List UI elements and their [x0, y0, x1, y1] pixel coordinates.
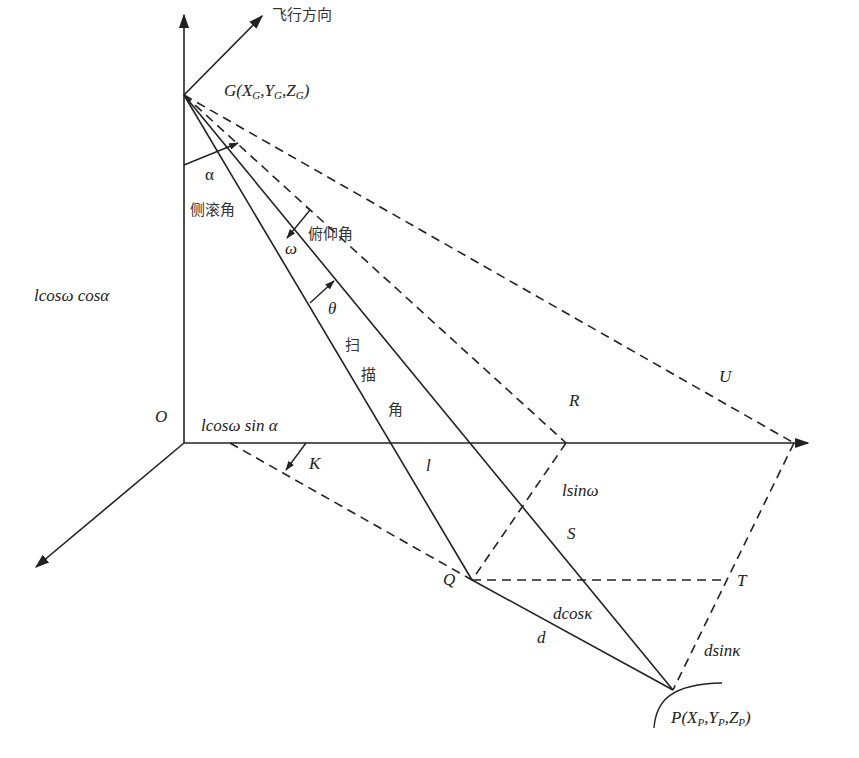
R-label: R	[569, 392, 579, 409]
T-label: T	[737, 572, 746, 589]
vertical-length-label: lcosω cosα	[34, 287, 109, 304]
roll-angle-label: 侧滚角	[190, 203, 235, 218]
dashed-G-U	[184, 95, 794, 443]
omega-label: ω	[285, 240, 297, 257]
point-G-label: G(XG,YG,ZG)	[224, 82, 309, 101]
l-label: l	[426, 457, 431, 474]
horizontal-length-label: lcosω sin α	[201, 417, 278, 434]
scan-angle-char-2: 描	[361, 368, 376, 383]
pitch-angle-label: 俯仰角	[308, 227, 353, 242]
ray-G-Q	[184, 95, 472, 580]
lsin-omega-label: lsinω	[562, 482, 599, 499]
kappa-arrow	[286, 443, 306, 470]
origin-label: O	[155, 408, 167, 425]
dcos-kappa-label: dcosκ	[553, 605, 592, 622]
ray-G-P	[184, 95, 673, 690]
Q-label: Q	[443, 571, 455, 588]
dsin-kappa-label: dsinκ	[704, 642, 741, 659]
K-label: K	[309, 455, 320, 472]
scan-angle-char-3: 角	[388, 403, 403, 418]
S-label: S	[567, 525, 576, 542]
y-axis	[36, 443, 184, 567]
d-label: d	[537, 629, 546, 646]
segment-Q-P	[472, 580, 673, 690]
theta-label: θ	[328, 300, 336, 317]
alpha-label: α	[205, 166, 214, 183]
scan-angle-char-1: 扫	[345, 338, 360, 353]
flight-direction-label: 飞行方向	[272, 8, 332, 23]
U-label: U	[719, 368, 731, 385]
figure-caption-clipped	[240, 748, 640, 758]
dashed-G-R	[184, 95, 566, 443]
dashed-x-Q	[230, 443, 472, 580]
point-P-label: P(XP,YP,ZP)	[671, 709, 751, 728]
alpha-arrow	[184, 143, 238, 165]
